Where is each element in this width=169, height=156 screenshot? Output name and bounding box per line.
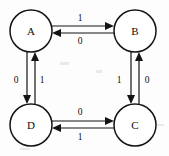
- scan-artifact: [60, 62, 69, 65]
- arrowhead-into-b-from-c: [135, 52, 143, 61]
- diagram-canvas: 1 0 0 1 1: [0, 0, 169, 156]
- node-c[interactable]: C: [114, 104, 156, 146]
- edge-b-to-a: 0: [52, 29, 114, 46]
- node-b-label: B: [131, 25, 138, 37]
- node-d[interactable]: D: [10, 104, 52, 146]
- scan-artifact: [96, 70, 102, 73]
- edge-label-a-to-b: 1: [78, 13, 83, 23]
- edge-label-c-to-b: 0: [145, 75, 150, 85]
- arrowhead-into-d-from-c: [52, 124, 61, 132]
- edge-a-to-d: 0: [14, 52, 31, 104]
- edge-label-a-to-d: 0: [14, 75, 19, 85]
- edge-b-to-c: 1: [117, 52, 135, 104]
- node-a-label: A: [27, 25, 35, 37]
- node-b[interactable]: B: [114, 10, 156, 52]
- edge-label-b-to-a: 0: [78, 36, 83, 46]
- scan-artifact: [20, 148, 30, 150]
- edge-label-d-to-a: 1: [40, 75, 45, 85]
- edge-label-b-to-c: 1: [117, 75, 122, 85]
- arrowhead-into-a-from-d: [31, 52, 39, 61]
- scan-artifact: [157, 124, 164, 126]
- node-a[interactable]: A: [10, 10, 52, 52]
- arrowhead-into-b: [105, 22, 114, 30]
- node-d-label: D: [27, 119, 35, 131]
- edge-a-to-b: 1: [52, 13, 114, 30]
- edge-label-c-to-d: 1: [78, 132, 83, 142]
- arrowhead-into-a: [52, 29, 61, 37]
- arrowhead-into-d: [23, 95, 31, 104]
- edge-d-to-a: 1: [31, 52, 45, 104]
- edge-c-to-d: 1: [52, 124, 114, 142]
- node-c-label: C: [131, 119, 138, 131]
- edge-label-d-to-c: 0: [78, 107, 83, 117]
- edge-d-to-c: 0: [52, 107, 114, 125]
- arrowhead-into-c: [127, 95, 135, 104]
- edge-c-to-b: 0: [135, 52, 150, 104]
- arrowhead-into-c-from-d: [105, 117, 114, 125]
- state-diagram: 1 0 0 1 1: [0, 0, 169, 156]
